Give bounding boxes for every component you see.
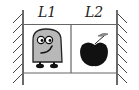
left-wall: [13, 10, 23, 85]
cartoon-character-icon: [33, 29, 62, 68]
label-l2: L2: [85, 5, 103, 19]
apple-icon: [80, 33, 108, 66]
right-wall: [117, 10, 127, 85]
label-l1: L1: [38, 5, 56, 19]
two-box-diagram: [0, 0, 139, 90]
